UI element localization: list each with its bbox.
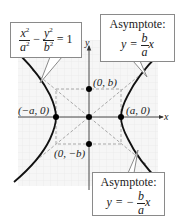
vertex-left-label: (−a, 0): [18, 105, 49, 116]
b-var: b: [137, 190, 145, 204]
y-axis-label: y: [85, 38, 89, 48]
vertex-left-point: [53, 114, 59, 120]
x-squared-over-a-squared: x2 a2: [19, 27, 30, 54]
hyperbola-diagram: x2 a2 − y2 b2 = 1 Asymptote: y = b a x A…: [0, 0, 176, 221]
exponent: 2: [26, 40, 30, 48]
asymptote-upper-title: Asymptote:: [101, 18, 174, 30]
exponent: 2: [26, 26, 30, 34]
asymptote-upper-x: x: [149, 37, 154, 51]
co-vertex-bottom-point: [86, 141, 92, 147]
equals-one: = 1: [57, 32, 73, 46]
minus-sign: −: [33, 32, 40, 46]
asymptote-lower-callout: Asymptote: y = − b a x: [92, 172, 165, 216]
exponent: 2: [49, 26, 53, 34]
vertex-right-point: [118, 114, 124, 120]
b-var: b: [141, 32, 149, 46]
y-squared-over-b-squared: y2 b2: [43, 27, 54, 54]
asymptote-lower-lhs: y = −: [107, 195, 135, 209]
origin-point: [86, 114, 92, 120]
x-axis-label: x: [164, 112, 168, 122]
asymptote-upper-fraction: b a: [141, 32, 149, 59]
co-vertex-bottom-label: (0, −b): [54, 148, 85, 159]
a-var: a: [138, 204, 144, 217]
asymptote-upper-lhs: y =: [121, 37, 137, 51]
asymptote-upper-callout: Asymptote: y = b a x: [100, 14, 175, 62]
co-vertex-top-label: (0, b): [93, 77, 117, 88]
equation-callout: x2 a2 − y2 b2 = 1: [10, 22, 82, 58]
a-var: a: [142, 46, 148, 59]
vertex-right-label: (a, 0): [126, 105, 150, 116]
asymptote-lower-fraction: b a: [137, 190, 145, 217]
asymptote-lower-x: x: [145, 195, 150, 209]
exponent: 2: [50, 40, 54, 48]
co-vertex-top-point: [86, 86, 92, 92]
asymptote-lower-title: Asymptote:: [93, 176, 164, 188]
